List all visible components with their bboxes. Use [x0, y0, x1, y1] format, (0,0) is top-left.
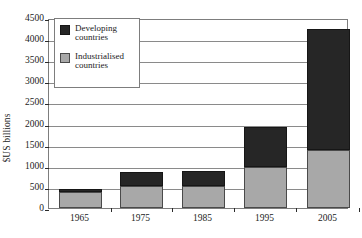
y-tick-label: 500 — [12, 183, 44, 193]
y-tick-label: 4000 — [12, 35, 44, 45]
legend-label-developing: Developing countries — [75, 24, 117, 43]
bar-segment-developing — [307, 29, 350, 150]
gridline — [49, 147, 347, 148]
y-tick-label: 1000 — [12, 162, 44, 172]
chart-legend: Developing countries Industrialised coun… — [54, 18, 140, 88]
x-tick-mark — [172, 208, 173, 212]
legend-item-developing: Developing countries — [60, 24, 135, 43]
x-tick-label-1965: 1965 — [60, 214, 100, 224]
gridline — [49, 126, 347, 127]
bar-1975 — [120, 172, 163, 208]
bar-segment-industrialised — [244, 167, 287, 208]
x-tick-label-1975: 1975 — [121, 214, 161, 224]
x-tick-label-2005: 2005 — [308, 214, 348, 224]
bar-1965 — [59, 189, 102, 208]
stacked-bar-chart: $US billions 050010001500200025003000350… — [0, 0, 362, 238]
y-tick-mark — [45, 62, 49, 63]
y-tick-label: 4500 — [12, 14, 44, 24]
y-tick-label: 3500 — [12, 56, 44, 66]
x-tick-label-1985: 1985 — [183, 214, 223, 224]
y-tick-label: 3000 — [12, 77, 44, 87]
legend-label-developing-line2: countries — [75, 33, 117, 42]
x-tick-label-1995: 1995 — [245, 214, 285, 224]
gridline — [49, 104, 347, 105]
bar-segment-developing — [244, 127, 287, 168]
x-tick-mark — [234, 208, 235, 212]
y-tick-mark — [45, 41, 49, 42]
y-tick-mark — [45, 168, 49, 169]
legend-label-industrialised: Industrialised countries — [75, 52, 124, 71]
x-tick-mark — [296, 208, 297, 212]
x-tick-mark — [111, 208, 112, 212]
bar-1985 — [182, 171, 225, 208]
y-tick-mark — [45, 126, 49, 127]
bar-segment-industrialised — [307, 150, 350, 208]
y-tick-label: 2500 — [12, 98, 44, 108]
bar-segment-industrialised — [182, 186, 225, 208]
legend-swatch-industrialised-icon — [60, 53, 70, 63]
y-tick-label: 2000 — [12, 120, 44, 130]
y-tick-mark — [45, 104, 49, 105]
y-tick-mark — [45, 189, 49, 190]
bar-segment-developing — [182, 171, 225, 185]
bar-1995 — [244, 127, 287, 208]
y-axis-tick-labels: 050010001500200025003000350040004500 — [12, 0, 44, 238]
legend-swatch-developing-icon — [60, 25, 70, 35]
bar-segment-industrialised — [120, 186, 163, 208]
y-tick-label: 0 — [12, 204, 44, 214]
x-tick-mark — [359, 208, 360, 212]
y-tick-label: 1500 — [12, 141, 44, 151]
bar-segment-developing — [120, 172, 163, 186]
y-axis-title-text: $US billions — [2, 114, 12, 163]
y-tick-mark — [45, 147, 49, 148]
bar-2005 — [307, 29, 350, 208]
gridline — [49, 168, 347, 169]
legend-label-industrialised-line2: countries — [75, 61, 124, 70]
y-tick-mark — [45, 210, 49, 211]
legend-item-industrialised: Industrialised countries — [60, 52, 135, 71]
y-tick-mark — [45, 20, 49, 21]
y-tick-mark — [45, 83, 49, 84]
bar-segment-industrialised — [59, 192, 102, 208]
bar-segment-developing — [59, 189, 102, 192]
